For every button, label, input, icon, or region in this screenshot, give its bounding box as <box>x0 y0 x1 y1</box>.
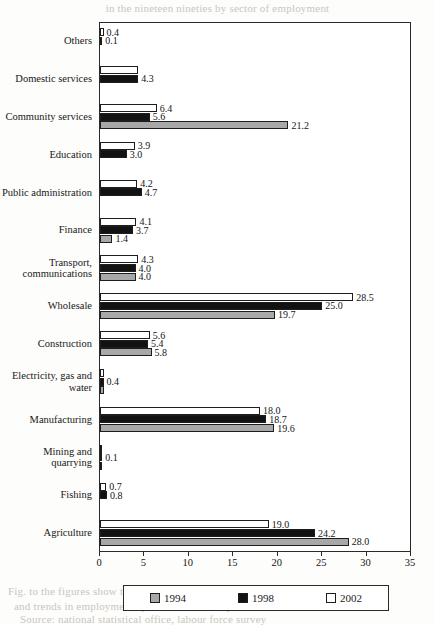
x-axis-tick <box>366 552 367 556</box>
category-label: Electricity, gas and water <box>0 363 96 401</box>
bar-1994 <box>100 386 104 394</box>
legend-label: 1998 <box>252 592 274 604</box>
bar-1998 <box>100 378 104 386</box>
x-axis-tick-label: 25 <box>316 557 327 568</box>
bar-1994 <box>100 273 136 281</box>
x-axis-tick <box>277 552 278 556</box>
x-axis-tick <box>99 552 100 556</box>
bar-1998 <box>100 188 142 196</box>
legend-item-1994[interactable]: 1994 <box>150 592 186 604</box>
bar-1998 <box>100 529 315 537</box>
category-label: Education <box>0 136 96 174</box>
chart-row: Manufacturing18.018.719.6 <box>0 401 435 439</box>
legend-item-1998[interactable]: 1998 <box>238 592 274 604</box>
bar-value-label: 5.8 <box>155 348 168 358</box>
chart-legend: 199419982002 <box>123 585 389 611</box>
x-axis-tick-label: 15 <box>227 557 238 568</box>
bar-value-label: 19.7 <box>278 310 296 320</box>
category-label: Finance <box>0 211 96 249</box>
chart-row: Fishing0.70.8 <box>0 476 435 514</box>
bar-group: 4.13.71.4 <box>100 211 411 249</box>
bar-1998 <box>100 264 136 272</box>
bar-1998 <box>100 150 127 158</box>
bar-2002 <box>100 445 102 453</box>
bar-value-label: 28.5 <box>356 293 374 303</box>
legend-item-2002[interactable]: 2002 <box>326 592 362 604</box>
bar-group: 3.93.0 <box>100 136 411 174</box>
x-axis-tick-label: 5 <box>141 557 146 568</box>
bar-value-label: 28.0 <box>352 537 370 547</box>
swatch-1998-icon <box>238 593 248 603</box>
x-axis-tick-label: 0 <box>96 557 101 568</box>
category-label: Wholesale <box>0 287 96 325</box>
bar-value-label: 4.7 <box>145 188 158 198</box>
bar-group: 28.525.019.7 <box>100 287 411 325</box>
bar-value-label: 0.1 <box>105 36 118 46</box>
bar-group: 4.3 <box>100 60 411 98</box>
x-axis-tick <box>321 552 322 556</box>
swatch-1994-icon <box>150 593 160 603</box>
bar-2002 <box>100 293 353 301</box>
bar-1994 <box>100 121 288 129</box>
chart-row: Mining and quarrying0.1 <box>0 438 435 476</box>
category-label: Community services <box>0 98 96 136</box>
chart-row: Public administration4.24.7 <box>0 173 435 211</box>
x-axis-tick-label: 10 <box>183 557 194 568</box>
x-axis-tick-label: 30 <box>360 557 371 568</box>
bar-1998 <box>100 75 138 83</box>
category-label: Others <box>0 22 96 60</box>
bar-1994 <box>100 235 112 243</box>
bar-2002 <box>100 407 260 415</box>
chart-row: Community services6.45.621.2 <box>0 98 435 136</box>
bar-1998 <box>100 491 107 499</box>
bar-value-label: 0.1 <box>105 453 118 463</box>
bar-group: 6.45.621.2 <box>100 98 411 136</box>
chart-row: Wholesale28.525.019.7 <box>0 287 435 325</box>
bar-1998 <box>100 415 266 423</box>
bar-value-label: 19.6 <box>277 424 295 434</box>
bar-value-label: 3.7 <box>136 226 149 236</box>
bar-2002 <box>100 28 104 36</box>
x-axis: 05101520253035 <box>99 552 411 576</box>
chart-row: Finance4.13.71.4 <box>0 211 435 249</box>
chart-row: Electricity, gas and water0.4 <box>0 363 435 401</box>
x-axis-tick <box>232 552 233 556</box>
bar-value-label: 3.0 <box>130 150 143 160</box>
bar-1994 <box>100 462 102 470</box>
chart-row: Others0.40.1 <box>0 22 435 60</box>
bar-value-label: 21.2 <box>291 121 309 131</box>
bar-group: 18.018.719.6 <box>100 401 411 439</box>
swatch-2002-icon <box>326 593 336 603</box>
bar-value-label: 25.0 <box>325 301 343 311</box>
bar-value-label: 4.0 <box>139 272 152 282</box>
bar-group: 4.34.04.0 <box>100 249 411 287</box>
bar-value-label: 4.3 <box>141 74 154 84</box>
bar-1998 <box>100 113 150 121</box>
bar-group: 0.70.8 <box>100 476 411 514</box>
chart-rows: Others0.40.1Domestic services4.3Communit… <box>0 22 435 552</box>
bar-1998 <box>100 37 102 45</box>
bar-value-label: 0.4 <box>107 377 120 387</box>
chart-row: Construction5.65.45.8 <box>0 325 435 363</box>
bar-2002 <box>100 369 104 377</box>
bar-2002 <box>100 66 138 74</box>
chart-row: Domestic services4.3 <box>0 60 435 98</box>
category-label: Agriculture <box>0 514 96 552</box>
bar-group: 0.40.1 <box>100 22 411 60</box>
chart-row: Agriculture19.024.228.0 <box>0 514 435 552</box>
bar-2002 <box>100 520 269 528</box>
category-label: Transport, communications <box>0 249 96 287</box>
legend-label: 1994 <box>164 592 186 604</box>
category-label: Construction <box>0 325 96 363</box>
chart-row: Transport, communications4.34.04.0 <box>0 249 435 287</box>
legend-label: 2002 <box>340 592 362 604</box>
bar-1998 <box>100 340 148 348</box>
category-label: Manufacturing <box>0 401 96 439</box>
bar-1994 <box>100 538 349 546</box>
bar-1994 <box>100 311 275 319</box>
bar-group: 19.024.228.0 <box>100 514 411 552</box>
bar-2002 <box>100 331 150 339</box>
bar-group: 0.1 <box>100 438 411 476</box>
bar-2002 <box>100 218 136 226</box>
